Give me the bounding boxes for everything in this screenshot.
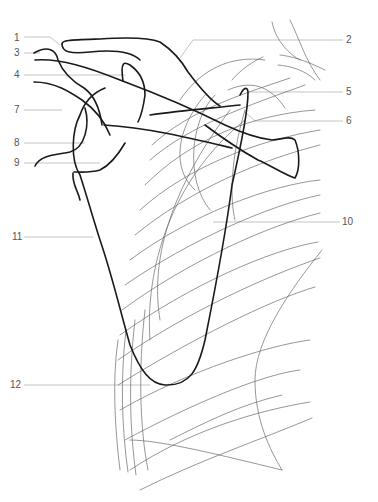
label-12: 12 bbox=[10, 380, 21, 390]
anatomy-figure: 1 2 3 4 5 6 7 8 9 10 11 12 bbox=[0, 0, 378, 502]
leader-1 bbox=[24, 37, 60, 45]
label-8: 8 bbox=[14, 138, 20, 148]
label-4: 4 bbox=[14, 70, 20, 80]
label-1: 1 bbox=[14, 33, 20, 43]
scapula-drawing bbox=[0, 0, 378, 502]
leader-2 bbox=[180, 40, 343, 58]
label-3: 3 bbox=[14, 48, 20, 58]
label-6: 6 bbox=[346, 116, 352, 126]
label-5: 5 bbox=[346, 87, 352, 97]
label-7: 7 bbox=[14, 105, 20, 115]
label-10: 10 bbox=[342, 217, 353, 227]
label-9: 9 bbox=[14, 158, 20, 168]
label-2: 2 bbox=[346, 35, 352, 45]
leader-lines bbox=[24, 37, 343, 385]
label-11: 11 bbox=[12, 232, 22, 242]
